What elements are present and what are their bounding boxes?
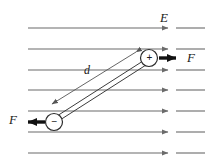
negative-sign-label: − [50, 117, 59, 127]
separation-label: d [84, 64, 90, 76]
diagram-canvas [0, 0, 209, 165]
field-lines-group [28, 28, 205, 153]
dipole-rod-edge-lower [60, 65, 146, 120]
dipole-rod-edge-upper [57, 61, 143, 116]
dimension-line [52, 52, 136, 104]
force-left-label: F [9, 113, 17, 126]
dipole-field-diagram: E d F F + − [0, 0, 209, 165]
separation-dimension-arrow [52, 52, 136, 104]
field-label: E [160, 11, 168, 24]
force-right-label: F [187, 51, 195, 64]
positive-sign-label: + [145, 53, 154, 63]
